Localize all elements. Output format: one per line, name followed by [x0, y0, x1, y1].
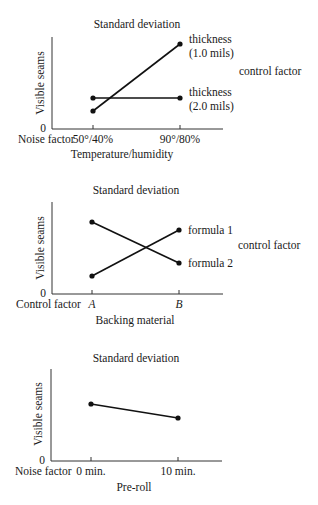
data-point	[177, 95, 182, 100]
data-point	[175, 415, 180, 420]
series-label: (2.0 mils)	[189, 100, 234, 113]
x-role-label: Noise factor	[18, 133, 75, 145]
data-point	[90, 95, 95, 100]
series-line	[91, 404, 178, 418]
data-point	[90, 108, 95, 113]
chart-temperature-humidity: Standard deviation 0 Visible seams Noise…	[18, 18, 301, 161]
chart-backing-material: Standard deviation 0 Visible seams Contr…	[16, 184, 300, 327]
x-tick-label: 10 min.	[160, 465, 195, 477]
x-tick-label: 0 min.	[76, 465, 106, 477]
legend-title: control factor	[238, 239, 300, 251]
y-axis-label: Visible seams	[34, 216, 46, 280]
x-axis-label: Pre-roll	[116, 481, 151, 493]
x-tick-label: B	[175, 298, 182, 310]
data-point	[89, 219, 94, 224]
data-point	[177, 41, 182, 46]
series-line-formula-2	[92, 222, 179, 263]
data-point	[89, 273, 94, 278]
series-line-formula-1	[92, 230, 179, 276]
series-line-thickness-1	[93, 44, 180, 111]
series-label: (1.0 mils)	[189, 47, 234, 60]
chart-title: Standard deviation	[93, 184, 180, 196]
series-label: thickness	[189, 86, 232, 98]
x-axis-label: Backing material	[96, 314, 175, 327]
y-axis-label: Visible seams	[32, 382, 44, 446]
chart-title: Standard deviation	[94, 18, 181, 30]
x-tick-label: A	[87, 298, 96, 310]
data-point	[88, 401, 93, 406]
data-point	[176, 260, 181, 265]
series-label: formula 1	[188, 224, 233, 236]
x-role-label: Control factor	[16, 298, 81, 310]
x-axis-label: Temperature/humidity	[71, 148, 174, 161]
x-tick-label: 90°/80%	[160, 133, 201, 145]
y-axis-label: Visible seams	[34, 51, 46, 115]
figure: Standard deviation 0 Visible seams Noise…	[0, 0, 318, 505]
data-point	[176, 227, 181, 232]
legend-title: control factor	[239, 65, 301, 77]
x-tick-label: 50°/40%	[73, 133, 114, 145]
chart-pre-roll: Standard deviation 0 Visible seams Noise…	[15, 352, 222, 493]
series-label: thickness	[189, 33, 232, 45]
series-label: formula 2	[188, 257, 233, 269]
x-role-label: Noise factor	[15, 465, 72, 477]
chart-title: Standard deviation	[93, 352, 180, 364]
